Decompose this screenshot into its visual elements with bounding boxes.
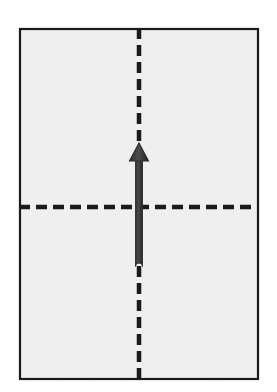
fold-diagram-container	[0, 0, 277, 392]
fold-diagram	[0, 0, 277, 392]
arrow-shaft	[136, 160, 143, 267]
